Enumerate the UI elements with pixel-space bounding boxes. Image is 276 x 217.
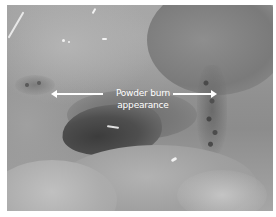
left-arrow-icon bbox=[55, 93, 103, 95]
medical-photo: Powder burn appearance bbox=[7, 5, 273, 211]
annotation-line-1: Powder burn bbox=[110, 87, 176, 99]
right-arrow-icon bbox=[173, 93, 213, 95]
annotation-label: Powder burn appearance bbox=[110, 87, 176, 111]
annotation-line-2: appearance bbox=[110, 99, 176, 111]
